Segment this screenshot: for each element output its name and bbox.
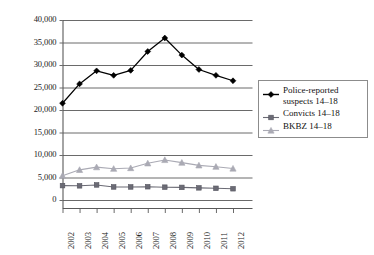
x-tick-label: 2006: [135, 232, 144, 249]
data-point-marker: [213, 72, 219, 78]
x-tick-label: 2002: [67, 232, 76, 249]
x-tick-marks: [63, 209, 234, 214]
y-tick-label: 0: [0, 195, 57, 204]
legend-marker-square-icon: [262, 109, 280, 120]
data-point-marker: [163, 185, 168, 190]
x-tick-label: 2010: [203, 232, 212, 249]
y-tick-label: 25,000: [0, 83, 57, 92]
y-tick-label: 30,000: [0, 60, 57, 69]
data-point-marker: [60, 183, 65, 188]
data-point-marker: [128, 185, 133, 190]
data-point-marker: [269, 115, 274, 120]
x-tick-label: 2005: [118, 232, 127, 249]
legend-label: Convicts 14–18: [283, 108, 340, 119]
x-tick-label: 2008: [169, 232, 178, 249]
series-line: [63, 38, 234, 103]
data-point-marker: [111, 185, 116, 190]
data-point-marker: [111, 72, 117, 78]
y-tick-label: 35,000: [0, 38, 57, 47]
x-tick-label: 2004: [101, 232, 110, 249]
axis-lines: [60, 20, 253, 209]
y-tick-label: 20,000: [0, 105, 57, 114]
data-point-marker: [214, 186, 219, 191]
y-tick-label: 15,000: [0, 128, 57, 137]
line-chart: 05,00010,00015,00020,00025,00030,00035,0…: [0, 0, 374, 255]
legend-item: BKBZ 14–18: [262, 121, 363, 133]
data-point-marker: [77, 184, 82, 189]
series-3: [59, 157, 236, 178]
data-point-marker: [197, 186, 202, 191]
series-1: [60, 35, 236, 106]
series-2: [60, 183, 235, 191]
data-point-marker: [231, 186, 236, 191]
x-tick-label: 2007: [152, 232, 161, 249]
legend-label: Police-reported suspects 14–18: [283, 85, 363, 107]
gridlines: [63, 21, 253, 201]
data-point-marker: [145, 184, 150, 189]
legend-item: Police-reported suspects 14–18: [262, 85, 363, 107]
y-tick-label: 5,000: [0, 173, 57, 182]
legend-label: BKBZ 14–18: [283, 121, 332, 132]
data-point-marker: [94, 183, 99, 188]
data-point-marker: [180, 185, 185, 190]
chart-legend: Police-reported suspects 14–18Convicts 1…: [258, 80, 368, 138]
y-tick-label: 10,000: [0, 150, 57, 159]
x-tick-label: 2003: [84, 232, 93, 249]
legend-marker-diamond-icon: [262, 86, 280, 97]
series-layer: [59, 35, 236, 191]
data-point-marker: [230, 78, 236, 84]
x-tick-label: 2012: [237, 232, 246, 249]
legend-marker-triangle-icon: [262, 122, 280, 133]
legend-item: Convicts 14–18: [262, 108, 363, 120]
x-tick-label: 2011: [220, 232, 229, 249]
data-point-marker: [162, 157, 168, 163]
x-tick-label: 2009: [186, 232, 195, 249]
data-point-marker: [268, 92, 274, 98]
y-tick-label: 40,000: [0, 15, 57, 24]
